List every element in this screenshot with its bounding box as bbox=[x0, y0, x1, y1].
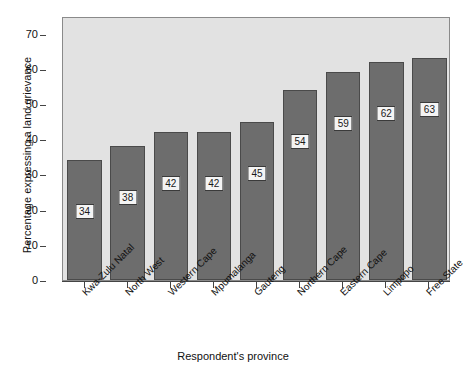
bar-value-label: 42 bbox=[161, 176, 180, 191]
bar-value-label: 34 bbox=[75, 204, 94, 219]
y-tick-mark bbox=[40, 246, 46, 247]
bars-layer: 343842424554596263 bbox=[63, 18, 449, 280]
y-axis: 010203040506070 bbox=[0, 0, 52, 372]
bar: 34 bbox=[67, 160, 101, 280]
y-tick-label: 50 bbox=[0, 99, 38, 110]
y-tick-mark bbox=[40, 70, 46, 71]
y-tick-label: 70 bbox=[0, 29, 38, 40]
bar-value-label: 54 bbox=[291, 134, 310, 149]
bar-value-label: 62 bbox=[377, 106, 396, 121]
bar: 63 bbox=[412, 58, 446, 280]
bar-chart: Percentage expressing a land grievance 0… bbox=[0, 0, 466, 372]
bar-value-label: 38 bbox=[118, 190, 137, 205]
y-tick-label: 0 bbox=[0, 275, 38, 286]
bar: 62 bbox=[369, 62, 403, 280]
bar: 54 bbox=[283, 90, 317, 280]
plot-area: 343842424554596263 bbox=[62, 17, 450, 281]
bar-value-label: 45 bbox=[247, 166, 266, 181]
bar-value-label: 42 bbox=[204, 176, 223, 191]
y-tick-label: 20 bbox=[0, 205, 38, 216]
bar-value-label: 59 bbox=[334, 116, 353, 131]
y-tick-mark bbox=[40, 175, 46, 176]
y-tick-mark bbox=[40, 140, 46, 141]
y-tick-label: 30 bbox=[0, 169, 38, 180]
y-tick-label: 40 bbox=[0, 134, 38, 145]
y-tick-mark bbox=[40, 35, 46, 36]
y-tick-mark bbox=[40, 211, 46, 212]
y-tick-label: 10 bbox=[0, 240, 38, 251]
y-tick-mark bbox=[40, 281, 46, 282]
bar-value-label: 63 bbox=[420, 102, 439, 117]
y-tick-mark bbox=[40, 105, 46, 106]
y-tick-label: 60 bbox=[0, 64, 38, 75]
x-axis-title: Respondent's province bbox=[0, 350, 466, 363]
